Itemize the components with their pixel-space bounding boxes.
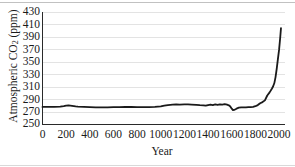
co2-line-chart: Atmospheric CO2 (ppm) 430410390370350330… [0,0,295,167]
x-axis-title: Year [42,145,282,157]
x-axis-tick-label: 2000 [262,129,295,141]
x-axis-tick-labels: 0200400600800100012001400160018002000 [0,129,295,143]
co2-data-line [43,28,281,110]
